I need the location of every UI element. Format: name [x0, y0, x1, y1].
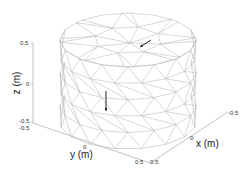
x-tick-neg0.5: -0.5: [228, 110, 238, 116]
x-tick-0.5: 0.5: [150, 159, 158, 165]
z-tick-0: 0: [26, 81, 29, 87]
z-tick-0.5: 0.5: [20, 40, 28, 46]
y-tick-0.5: 0.5: [135, 159, 143, 165]
z-tick-neg0.5: -0.5: [19, 118, 29, 124]
side-face-arrow-icon: [105, 91, 108, 111]
cylinder-mesh: [60, 13, 196, 149]
y-tick-neg0.5: -0.5: [19, 125, 29, 131]
y-axis-label: y (m): [70, 150, 93, 160]
x-axis-label: x (m): [196, 139, 219, 149]
x-tick-0: 0: [190, 135, 193, 141]
z-axis-label: z (m): [12, 72, 22, 95]
